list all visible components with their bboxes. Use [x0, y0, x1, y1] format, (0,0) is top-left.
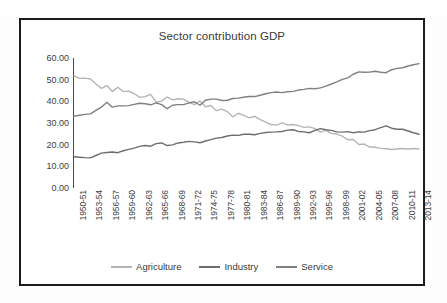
x-tick-label: 1983-84	[259, 190, 269, 221]
x-tick-label: 1968-69	[177, 190, 187, 221]
x-tick-label: 1950-51	[78, 190, 88, 221]
x-tick-label: 1962-63	[144, 190, 154, 221]
x-tick-label: 1959-60	[127, 190, 137, 221]
legend-label: Service	[301, 261, 333, 272]
x-tick-label: 1986-87	[275, 190, 285, 221]
x-tick-label: 2010-11	[407, 190, 417, 220]
series-line-agriculture	[74, 76, 419, 150]
x-tick-label: 1974-75	[209, 190, 219, 221]
series-line-industry	[74, 126, 419, 158]
x-tick-label: 2004-05	[374, 190, 384, 221]
y-tick-label: 60.00	[46, 53, 69, 63]
y-tick-label: 50.00	[46, 75, 69, 85]
x-tick-label: 1953-54	[94, 190, 104, 221]
legend-line-swatch-icon	[111, 266, 132, 268]
legend-line-swatch-icon	[276, 266, 297, 268]
y-axis-tick-labels: 0.0010.0020.0030.0040.0050.0060.00	[29, 20, 69, 284]
x-tick-label: 1956-57	[111, 190, 121, 221]
series-lines-svg	[74, 58, 419, 188]
y-tick-label: 0.00	[51, 183, 69, 193]
legend-label: Agriculture	[136, 261, 181, 272]
legend-line-swatch-icon	[199, 266, 220, 268]
chart-legend: AgricultureIndustryService	[21, 261, 423, 272]
y-tick-label: 20.00	[46, 140, 69, 150]
page-canvas: Sector contribution GDP 0.0010.0020.0030…	[0, 0, 447, 303]
plot-area	[74, 58, 419, 188]
x-tick-label: 2007-08	[390, 190, 400, 221]
x-tick-label: 1971-72	[193, 190, 203, 221]
legend-item-industry[interactable]: Industry	[199, 261, 258, 272]
legend-label: Industry	[224, 261, 258, 272]
chart-inner: Sector contribution GDP 0.0010.0020.0030…	[21, 20, 423, 284]
x-axis-tick-labels: 1950-511953-541956-571959-601962-631965-…	[74, 190, 419, 252]
x-tick-label: 1965-66	[160, 190, 170, 221]
series-line-service	[74, 64, 419, 117]
x-tick-label: 1989-90	[292, 190, 302, 221]
x-tick-label: 1980-81	[242, 190, 252, 221]
chart-figure-frame: Sector contribution GDP 0.0010.0020.0030…	[19, 18, 425, 286]
x-tick-label: 1998-99	[341, 190, 351, 221]
y-tick-label: 40.00	[46, 96, 69, 106]
chart-title: Sector contribution GDP	[21, 30, 423, 42]
page-top-margin	[0, 0, 447, 16]
y-tick-label: 10.00	[46, 161, 69, 171]
legend-item-agriculture[interactable]: Agriculture	[111, 261, 181, 272]
y-tick-label: 30.00	[46, 118, 69, 128]
x-tick-label: 1995-96	[324, 190, 334, 221]
x-tick-label: 2013-14	[423, 190, 433, 221]
x-tick-label: 2001-02	[357, 190, 367, 221]
x-tick-label: 1977-78	[226, 190, 236, 221]
legend-item-service[interactable]: Service	[276, 261, 333, 272]
x-tick-label: 1992-93	[308, 190, 318, 221]
